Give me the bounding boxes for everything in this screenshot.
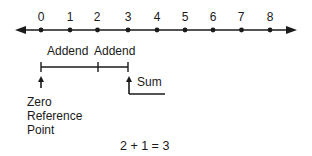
sum-label: Sum <box>137 75 162 89</box>
zero-reference-label-line3: Point <box>27 123 54 137</box>
right-arrow-icon <box>286 26 297 34</box>
zero-reference-arrow-icon <box>38 76 44 88</box>
tick-label-3: 3 <box>121 10 135 24</box>
tick-label-2: 2 <box>90 10 104 24</box>
addend-segment <box>41 62 128 72</box>
tick-label-4: 4 <box>150 10 164 24</box>
zero-reference-label-line1: Zero <box>27 95 52 109</box>
zero-reference-label-line2: Reference <box>27 109 82 123</box>
addend-label-1: Addend <box>47 44 88 58</box>
left-arrow-icon <box>15 26 26 34</box>
equation: 2 + 1 = 3 <box>120 139 169 153</box>
tick-label-0: 0 <box>34 10 48 24</box>
tick-label-8: 8 <box>263 10 277 24</box>
addend-label-2: Addend <box>94 44 135 58</box>
tick-label-7: 7 <box>234 10 248 24</box>
tick-label-6: 6 <box>206 10 220 24</box>
tick-label-1: 1 <box>63 10 77 24</box>
tick-label-5: 5 <box>178 10 192 24</box>
